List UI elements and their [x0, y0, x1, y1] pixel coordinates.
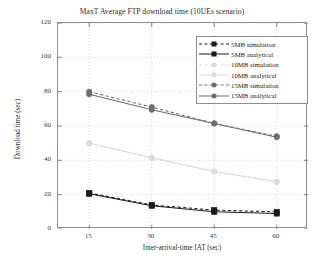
x-tick-label: 45	[210, 232, 217, 240]
legend-item[interactable]: 10MB simulation	[199, 60, 304, 70]
chart-legend: 5MB simulation5MB analytical10MB simulat…	[196, 36, 308, 104]
legend-item[interactable]: 15MB analytical	[199, 90, 304, 100]
legend-item[interactable]: 5MB simulation	[199, 39, 304, 49]
legend-sample	[199, 91, 229, 101]
x-tick-label: 30	[147, 232, 154, 240]
legend-sample	[199, 70, 229, 80]
legend-sample	[199, 80, 229, 90]
legend-square-marker-icon	[212, 42, 217, 47]
legend-circle-marker-icon	[212, 62, 217, 67]
legend-label: 15MB analytical	[229, 92, 277, 99]
x-tick-label: 60	[272, 232, 279, 240]
legend-label: 10MB simulation	[229, 61, 279, 68]
legend-circle-marker-icon	[212, 73, 217, 78]
legend-sample	[199, 60, 229, 70]
legend-label: 5MB analytical	[229, 51, 273, 58]
x-axis-title: Inter-arrival-time IAT (sec)	[57, 244, 307, 252]
legend-label: 5MB simulation	[229, 41, 275, 48]
legend-square-marker-icon	[212, 52, 217, 57]
chart-figure: MaxT Average FTP download time (10UEs sc…	[0, 0, 324, 274]
legend-item[interactable]: 5MB analytical	[199, 49, 304, 59]
legend-item[interactable]: 15MB simulation	[199, 80, 304, 90]
y-axis-title: Download time (sec)	[14, 59, 22, 199]
legend-circle-marker-icon	[212, 83, 217, 88]
legend-label: 15MB simulation	[229, 82, 279, 89]
legend-item[interactable]: 10MB analytical	[199, 70, 304, 80]
legend-circle-marker-icon	[212, 93, 217, 98]
legend-sample	[199, 39, 229, 49]
legend-sample	[199, 49, 229, 59]
x-tick-label: 15	[85, 232, 92, 240]
legend-label: 10MB analytical	[229, 72, 277, 79]
